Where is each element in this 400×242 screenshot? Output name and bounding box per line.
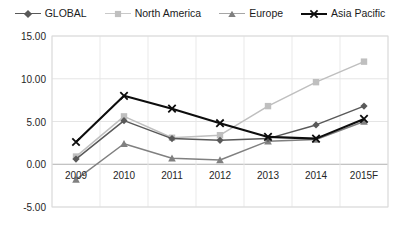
x-tick-label: 2011	[161, 170, 183, 181]
x-tick-label: 2014	[305, 170, 327, 181]
x-tick-label: 2015F	[350, 170, 378, 181]
x-tick-label: 2009	[65, 170, 87, 181]
line-chart: GLOBAL North America Europe	[0, 0, 400, 242]
x-tick-label: 2010	[113, 170, 135, 181]
x-tick-label: 2013	[257, 170, 279, 181]
x-axis-tick-labels: 2009201020112012201320142015F	[0, 0, 400, 242]
x-tick-label: 2012	[209, 170, 231, 181]
